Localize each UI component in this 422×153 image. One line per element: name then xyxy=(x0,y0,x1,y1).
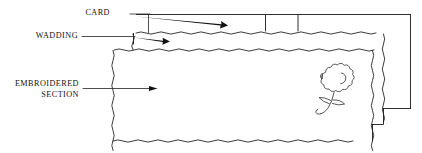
card-layer xyxy=(136,15,411,123)
wadding-layer xyxy=(114,34,374,52)
flower-stem-curl-icon xyxy=(316,110,321,115)
flower-petals-icon xyxy=(320,63,354,91)
diagram-canvas: CARD WADDING EMBROIDERED SECTION xyxy=(0,0,422,153)
label-embroidered-line-2: SECTION xyxy=(41,90,79,99)
embroidered-bottom-wavy-edge xyxy=(113,140,353,142)
embroidered-leader xyxy=(83,86,158,91)
card-leader xyxy=(130,14,228,33)
technical-diagram: CARD WADDING EMBROIDERED SECTION xyxy=(0,0,422,153)
embroidered-left-wavy-edge xyxy=(112,51,114,151)
embroidered-right-corner-return xyxy=(373,109,384,125)
flower-leaf-left-icon xyxy=(319,97,331,103)
flower-inner-petal-icon xyxy=(341,73,346,84)
label-wadding: WADDING xyxy=(36,31,78,40)
card-arrow-head xyxy=(136,17,228,29)
embroidered-arrow-head xyxy=(149,86,158,91)
label-card: CARD xyxy=(85,8,110,17)
wadding-arrow-head xyxy=(134,38,170,45)
embroidered-section-layer xyxy=(112,51,384,151)
wadding-leader xyxy=(82,37,170,45)
label-embroidered-line-1: EMBROIDERED xyxy=(15,79,79,88)
flower-leaf-right-icon xyxy=(333,100,345,105)
card-bottom-wavy-edge xyxy=(136,32,376,34)
flower-motif xyxy=(316,63,354,114)
wadding-bottom-wavy-edge xyxy=(114,49,374,51)
